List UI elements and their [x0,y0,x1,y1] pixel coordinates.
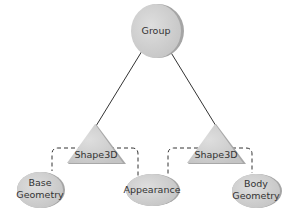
node-base-geometry-label-line2: Geometry [16,189,64,200]
node-group-label: Group [142,25,171,36]
node-appearance-label: Appearance [123,184,180,195]
node-group: Group [131,4,184,58]
edge-group-to-shape3d-left [96,51,142,126]
node-base-geometry: Base Geometry [16,172,65,208]
node-base-geometry-label-line1: Base [28,177,51,188]
node-body-geometry: Body Geometry [232,174,282,208]
node-shape3d-left: Shape3D [67,124,126,164]
node-shape3d-right: Shape3D [187,124,246,164]
node-body-geometry-label-line2: Geometry [232,190,280,201]
node-body-geometry-label-line1: Body [244,178,268,189]
edge-group-to-shape3d-right [170,51,216,126]
node-appearance: Appearance [123,174,180,206]
node-shape3d-left-label: Shape3D [74,149,117,160]
node-shape3d-right-label: Shape3D [194,149,237,160]
scene-graph-diagram: Group Shape3D Shape3D Base Geometry Appe… [0,0,303,217]
